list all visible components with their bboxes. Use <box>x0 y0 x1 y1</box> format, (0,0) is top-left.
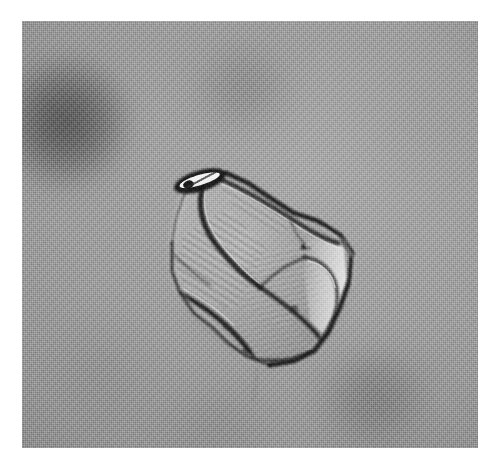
trailing-wisp <box>252 365 258 403</box>
micrograph-plate <box>22 21 478 448</box>
angular-particle <box>22 21 478 448</box>
figure-photomicrograph <box>0 0 496 468</box>
